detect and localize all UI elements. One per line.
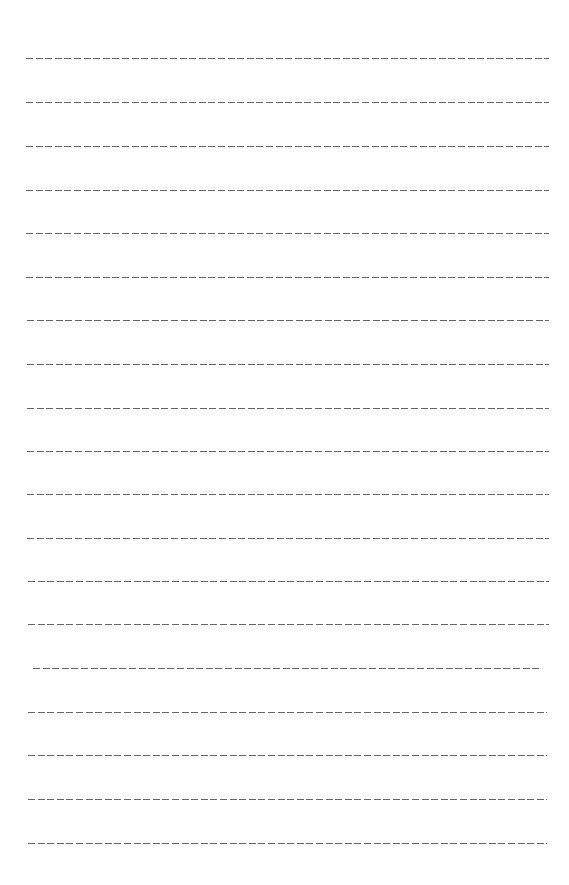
dashed-rule-line bbox=[28, 712, 547, 713]
dashed-rule-line bbox=[26, 58, 549, 59]
dashed-rule-line bbox=[28, 843, 547, 844]
dashed-rule-line bbox=[27, 364, 549, 365]
dashed-rule-line bbox=[28, 624, 549, 625]
dashed-rule-line bbox=[27, 320, 549, 321]
dashed-rule-line bbox=[28, 799, 547, 800]
dashed-rule-line bbox=[28, 581, 549, 582]
dashed-rule-line bbox=[27, 494, 549, 495]
dashed-rule-line bbox=[27, 451, 549, 452]
dashed-rule-line bbox=[33, 668, 541, 669]
dashed-rule-line bbox=[26, 277, 549, 278]
dashed-rule-line bbox=[28, 755, 547, 756]
dashed-rule-line bbox=[27, 408, 549, 409]
ruled-page bbox=[0, 0, 569, 885]
dashed-rule-line bbox=[27, 538, 549, 539]
dashed-rule-line bbox=[26, 233, 549, 234]
dashed-rule-line bbox=[26, 102, 549, 103]
dashed-rule-line bbox=[26, 146, 549, 147]
dashed-rule-line bbox=[26, 190, 549, 191]
